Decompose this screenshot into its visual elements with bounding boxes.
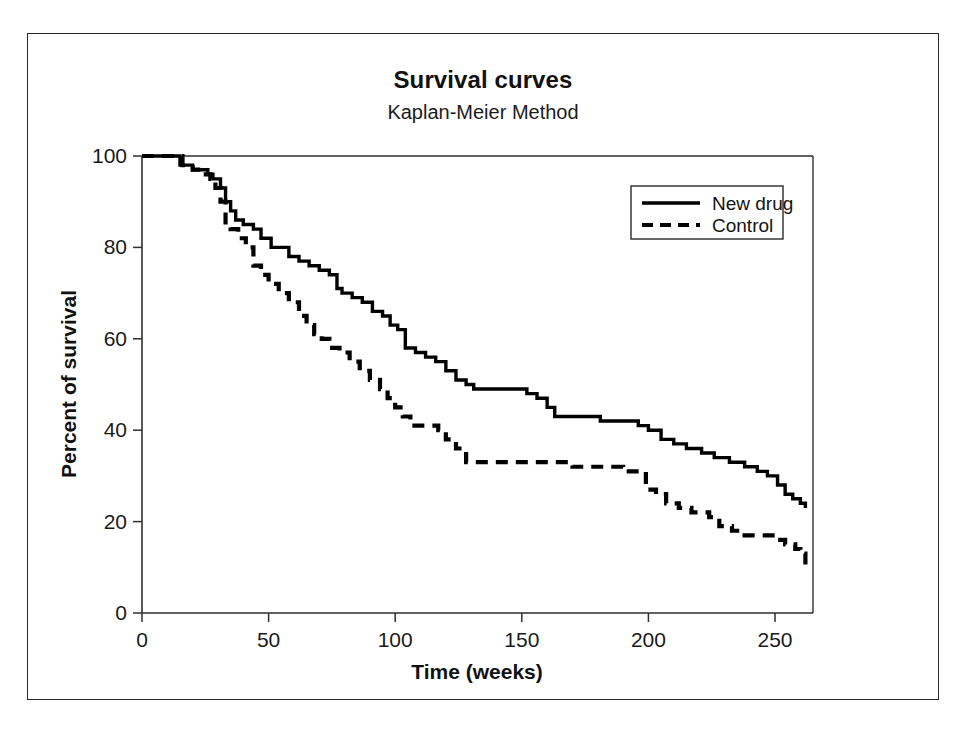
x-axis-ticks: 050100150200250 bbox=[136, 613, 792, 651]
x-tick-label: 200 bbox=[631, 628, 666, 651]
figure-frame: Survival curves Kaplan-Meier Method 0204… bbox=[27, 33, 939, 700]
y-tick-label: 0 bbox=[115, 601, 127, 624]
x-tick-label: 150 bbox=[504, 628, 539, 651]
legend-label-control: Control bbox=[712, 215, 773, 236]
x-tick-label: 100 bbox=[378, 628, 413, 651]
survival-curve-plot: 020406080100 050100150200250 Time (weeks… bbox=[28, 34, 940, 701]
legend[interactable]: New drug Control bbox=[631, 186, 793, 239]
plot-area-container: 020406080100 050100150200250 Time (weeks… bbox=[28, 34, 940, 701]
y-tick-label: 40 bbox=[104, 418, 127, 441]
x-tick-label: 0 bbox=[136, 628, 148, 651]
y-axis-title: Percent of survival bbox=[57, 290, 80, 478]
y-axis-ticks: 020406080100 bbox=[92, 144, 142, 624]
x-tick-label: 250 bbox=[757, 628, 792, 651]
x-axis-title: Time (weeks) bbox=[411, 660, 543, 683]
y-tick-label: 100 bbox=[92, 144, 127, 167]
y-tick-label: 80 bbox=[104, 235, 127, 258]
y-tick-label: 60 bbox=[104, 327, 127, 350]
y-tick-label: 20 bbox=[104, 510, 127, 533]
x-tick-label: 50 bbox=[257, 628, 280, 651]
legend-label-new-drug: New drug bbox=[712, 193, 793, 214]
